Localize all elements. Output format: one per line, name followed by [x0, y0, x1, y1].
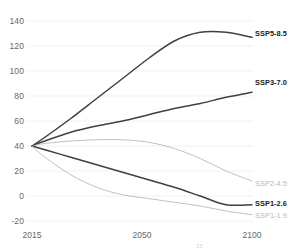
series-label-ssp1-2-6: SSP1-2.6	[255, 200, 287, 207]
x-axis-tick-2050: 2050	[122, 231, 162, 240]
chart-container: 140 120 100 80 60 40 20 0 -20 2015 2050 …	[0, 0, 291, 252]
y-axis-tick-140: 140	[2, 17, 24, 26]
series-label-ssp2-4-5: SSP2-4.5	[255, 180, 287, 187]
y-axis-tick-80: 80	[2, 92, 24, 101]
y-axis-tick-minus20: -20	[2, 217, 24, 226]
series-line-ssp3-7-0	[32, 92, 252, 146]
footer-page-mark: 15	[196, 243, 203, 249]
series-label-ssp5-8-5: SSP5-8.5	[255, 30, 287, 37]
x-axis-tick-2100: 2100	[232, 231, 272, 240]
y-axis-tick-100: 100	[2, 67, 24, 76]
chart-series-lines	[32, 31, 252, 214]
y-axis-tick-0: 0	[2, 192, 24, 201]
chart-plot-area	[0, 0, 291, 252]
series-line-ssp5-8-5	[32, 31, 252, 146]
series-label-ssp1-1-9: SSP1-1.9	[255, 212, 287, 219]
series-label-ssp3-7-0: SSP3-7.0	[255, 79, 287, 86]
x-axis-tick-2015: 2015	[12, 231, 52, 240]
chart-gridlines	[28, 21, 253, 221]
y-axis-tick-60: 60	[2, 117, 24, 126]
series-line-ssp1-2-6	[32, 146, 252, 205]
y-axis-tick-40: 40	[2, 142, 24, 151]
y-axis-tick-120: 120	[2, 42, 24, 51]
y-axis-tick-20: 20	[2, 167, 24, 176]
